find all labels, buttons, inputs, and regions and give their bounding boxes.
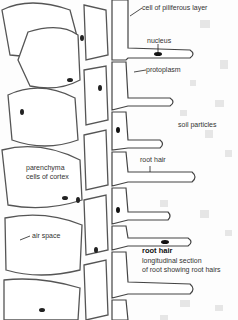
label-parenchyma-2: cells of cortex bbox=[26, 173, 69, 181]
label-piliferous: cell of piliferous layer bbox=[142, 4, 207, 12]
soil-particles bbox=[160, 20, 232, 320]
label-soil-particles: soil particles bbox=[178, 121, 217, 129]
label-root-hair: root hair bbox=[140, 156, 166, 164]
diagram-subtitle-2: of root showing root hairs bbox=[142, 266, 221, 274]
label-parenchyma-1: parenchyma bbox=[26, 164, 65, 172]
cortex-cells bbox=[2, 3, 108, 320]
root-hair-diagram: cell of piliferous layer nucleus protopl… bbox=[0, 0, 238, 320]
diagram-title: root hair bbox=[142, 247, 172, 255]
diagram-subtitle-1: longitudinal section bbox=[142, 257, 202, 265]
label-nucleus: nucleus bbox=[147, 37, 171, 45]
label-air-space: air space bbox=[32, 232, 60, 240]
label-protoplasm: protoplasm bbox=[146, 66, 181, 74]
